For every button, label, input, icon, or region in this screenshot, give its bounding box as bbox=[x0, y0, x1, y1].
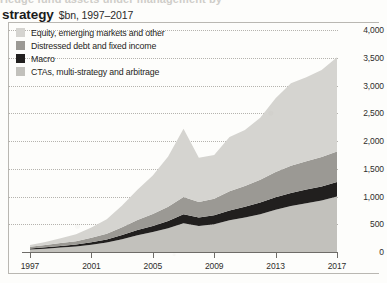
legend-item-ctas: CTAs, multi-strategy and arbitrage bbox=[16, 66, 226, 78]
chart-page: Hedge fund assets under management by st… bbox=[0, 0, 387, 283]
legend-swatch-macro bbox=[16, 54, 25, 63]
x-tick-2001 bbox=[91, 252, 92, 258]
x-tick-label-2017: 2017 bbox=[328, 261, 347, 271]
legend-label-distressed: Distressed debt and fixed income bbox=[31, 41, 156, 51]
legend-item-equity: Equity, emerging markets and other bbox=[16, 27, 226, 39]
legend-label-macro: Macro bbox=[31, 54, 55, 64]
chart-legend: Equity, emerging markets and otherDistre… bbox=[16, 27, 226, 79]
legend-swatch-ctas bbox=[16, 67, 25, 76]
x-tick-2013 bbox=[276, 252, 277, 258]
legend-label-equity: Equity, emerging markets and other bbox=[31, 28, 165, 38]
x-tick-label-1997: 1997 bbox=[21, 261, 40, 271]
legend-label-ctas: CTAs, multi-strategy and arbitrage bbox=[31, 67, 159, 77]
x-tick-2009 bbox=[214, 252, 215, 258]
x-tick-label-2005: 2005 bbox=[144, 261, 163, 271]
legend-item-distressed: Distressed debt and fixed income bbox=[16, 40, 226, 52]
legend-item-macro: Macro bbox=[16, 53, 226, 65]
legend-swatch-equity bbox=[16, 28, 25, 37]
x-tick-2017 bbox=[337, 252, 338, 258]
legend-swatch-distressed bbox=[16, 41, 25, 50]
x-tick-2005 bbox=[153, 252, 154, 258]
x-tick-label-2009: 2009 bbox=[205, 261, 224, 271]
x-tick-label-2013: 2013 bbox=[266, 261, 285, 271]
x-tick-label-2001: 2001 bbox=[82, 261, 101, 271]
x-tick-1997 bbox=[30, 252, 31, 258]
